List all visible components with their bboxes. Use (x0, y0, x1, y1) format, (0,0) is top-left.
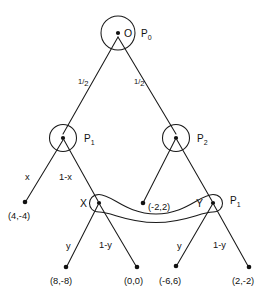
edge-label-one-minus-y-action-left: 1-y (99, 240, 112, 250)
node-label-x: X (80, 197, 87, 209)
edge-left-p1-to-terminal-4-minus4 (26, 140, 63, 201)
game-tree-diagram: O X Y P0 P1 P2 P1 1/2 1/2 (0, 0, 268, 297)
terminal-dot-8-minus8[interactable] (64, 265, 69, 270)
edge-label-y-action-right: y (177, 241, 182, 251)
terminal-dot-0-0[interactable] (135, 265, 140, 270)
node-dot-root[interactable] (116, 31, 120, 35)
terminal-dot-minus2-2[interactable] (141, 201, 146, 206)
payoff-label-2-minus2: (2,-2) (232, 276, 254, 286)
edge-label-root-right-half: 1/2 (134, 77, 145, 88)
node-circles-group (50, 16, 190, 152)
edge-label-x-action: x (25, 172, 30, 182)
player-label-root-p0: P0 (141, 28, 152, 41)
payoff-label-8-minus8: (8,-8) (50, 276, 72, 286)
node-labels-group: O X Y (80, 27, 203, 209)
node-dot-left-p1[interactable] (61, 136, 65, 140)
edge-label-one-minus-y-action-right: 1-y (213, 240, 226, 250)
payoff-label-minus2-2: (-2,2) (148, 202, 170, 212)
edge-x-to-terminal-8-minus8 (67, 205, 98, 266)
edge-x-to-terminal-0-0 (100, 205, 136, 266)
edge-y-to-terminal-minus6-6 (177, 205, 212, 265)
edge-root-to-left-p1 (63, 37, 118, 134)
edge-label-root-left-half: 1/2 (78, 77, 89, 88)
edge-right-p2-to-node-y (177, 140, 212, 201)
edge-root-to-right-p2 (118, 37, 176, 134)
player-label-right-p2: P2 (197, 133, 208, 146)
node-label-root-o: O (124, 27, 132, 39)
edge-label-one-minus-x-action: 1-x (59, 172, 72, 182)
game-tree-svg: O X Y P0 P1 P2 P1 1/2 1/2 (0, 0, 268, 297)
player-label-left-p1: P1 (84, 133, 95, 146)
terminal-dot-minus6-6[interactable] (174, 264, 179, 269)
payoff-label-0-0: (0,0) (124, 276, 143, 286)
edge-left-p1-to-node-x (64, 140, 98, 201)
node-label-y: Y (196, 197, 203, 209)
player-label-y-p1: P1 (230, 195, 241, 208)
edge-y-to-terminal-2-minus2 (214, 205, 248, 266)
node-dots-group (61, 31, 215, 205)
payoff-label-4-minus4: (4,-4) (8, 211, 30, 221)
node-dot-y[interactable] (211, 201, 215, 205)
terminal-dot-4-minus4[interactable] (23, 200, 28, 205)
edge-label-y-action-left: y (66, 241, 71, 251)
payoff-label-minus6-6: (-6,6) (159, 276, 181, 286)
edge-labels-group: 1/2 1/2 x 1-x y 1-y y 1-y (25, 77, 226, 251)
edge-right-p2-to-terminal-minus2-2 (144, 140, 175, 201)
node-dot-right-p2[interactable] (174, 136, 178, 140)
terminal-dot-2-minus2[interactable] (247, 265, 252, 270)
node-dot-x[interactable] (97, 201, 101, 205)
